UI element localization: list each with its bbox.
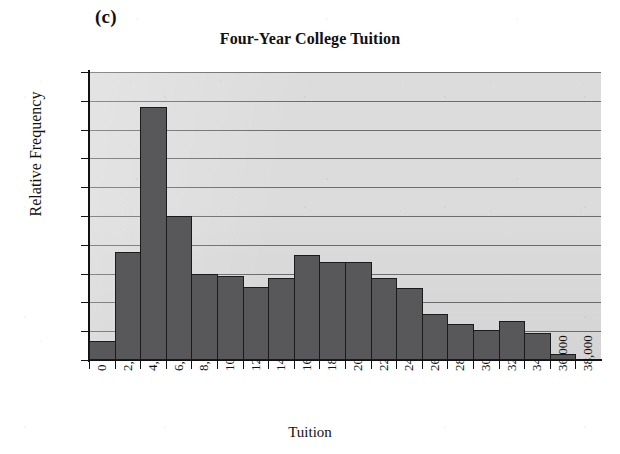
y-axis-tick-labels: 0.20.180.160.140.120.10.080.060.040.020 [0, 0, 78, 454]
x-axis-tick [243, 360, 244, 369]
x-axis-tick [575, 360, 576, 369]
histogram-bar [166, 216, 193, 360]
histogram-bar [89, 341, 116, 360]
x-axis-tick [268, 360, 269, 369]
x-axis-tick [294, 360, 295, 369]
x-axis-tick [422, 360, 423, 369]
histogram-bar [217, 276, 244, 360]
x-axis-tick [371, 360, 372, 369]
histogram-bar [345, 262, 372, 360]
histogram-bar [499, 321, 526, 360]
x-axis-tick [499, 360, 500, 369]
x-axis-tick [473, 360, 474, 369]
x-axis-tick-label: 36,000 [556, 335, 569, 371]
x-axis-tick [115, 360, 116, 369]
y-axis-tick [81, 360, 89, 361]
histogram-bar [473, 330, 500, 360]
histogram-bar [422, 314, 449, 360]
histogram-bar [319, 262, 346, 360]
x-axis-tick [447, 360, 448, 369]
y-axis-tick [81, 274, 89, 275]
chart-title: Four-Year College Tuition [0, 30, 620, 48]
x-axis-tick [345, 360, 346, 369]
x-axis-tick [89, 360, 90, 369]
y-axis-tick [81, 72, 89, 73]
histogram-bar [243, 287, 270, 360]
x-axis-tick-label: 38,000 [581, 335, 594, 371]
y-axis-tick [81, 187, 89, 188]
y-axis-tick [81, 101, 89, 102]
x-axis-tick [524, 360, 525, 369]
panel-label: (c) [95, 6, 117, 28]
histogram-bar [371, 278, 398, 360]
x-axis-tick [319, 360, 320, 369]
y-axis-tick [81, 331, 89, 332]
plot-area [89, 72, 601, 360]
y-axis-tick [81, 130, 89, 131]
y-axis-tick [81, 302, 89, 303]
histogram-bar [140, 107, 167, 360]
x-axis-tick [191, 360, 192, 369]
histogram-bar [550, 354, 577, 360]
x-axis-tick [217, 360, 218, 369]
histogram-bar [396, 288, 423, 360]
histogram-bar [447, 324, 474, 360]
x-axis-tick-label: 0 [95, 365, 108, 372]
histogram-bar [191, 274, 218, 360]
y-axis-tick [81, 245, 89, 246]
histogram-bar [294, 255, 321, 360]
histogram-bar [268, 278, 295, 360]
y-axis-tick [81, 158, 89, 159]
x-axis-tick [166, 360, 167, 369]
y-axis-tick [81, 216, 89, 217]
x-axis-tick [396, 360, 397, 369]
histogram-bar [115, 252, 142, 360]
x-axis-title: Tuition [0, 424, 620, 441]
histogram-bar [524, 333, 551, 360]
histogram-bars [89, 72, 601, 360]
x-axis-tick [140, 360, 141, 369]
x-axis-tick [550, 360, 551, 369]
